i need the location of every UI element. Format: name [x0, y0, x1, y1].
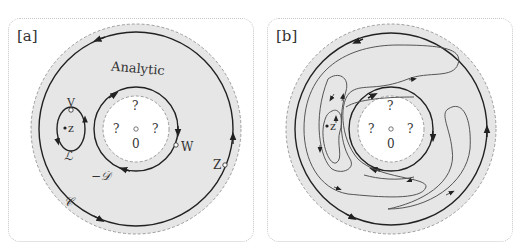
point-z: [63, 126, 66, 129]
label-origin: 0: [132, 137, 140, 151]
label-unknown-top: ?: [132, 99, 138, 113]
point-Z: [223, 163, 227, 167]
panel-a-diagram: Analytic ? ? ? 0 V z W Z ℒ −𝒟 𝒞: [9, 19, 255, 243]
label-unknown-right: ?: [407, 122, 413, 136]
label-w: W: [181, 140, 194, 154]
label-origin: 0: [387, 137, 395, 151]
label-unknown-right: ?: [152, 122, 158, 136]
panel-a: [a] Analytic ? ? ?: [8, 18, 254, 242]
origin-point: [134, 127, 138, 131]
label-contour-l: ℒ: [64, 149, 73, 163]
label-unknown-left: ?: [368, 122, 374, 136]
label-Z: Z: [213, 158, 221, 172]
label-z: z: [68, 122, 74, 135]
label-unknown-top: ?: [387, 99, 393, 113]
label-contour-d: −𝒟: [91, 169, 113, 183]
panel-b: [b]: [267, 18, 513, 242]
origin-point: [389, 127, 393, 131]
panel-b-diagram: ? ? ? 0 z: [268, 19, 514, 243]
point-z: [325, 124, 328, 127]
label-v: V: [66, 96, 76, 109]
label-unknown-left: ?: [113, 122, 119, 136]
point-w: [174, 143, 178, 147]
label-z: z: [330, 120, 336, 133]
